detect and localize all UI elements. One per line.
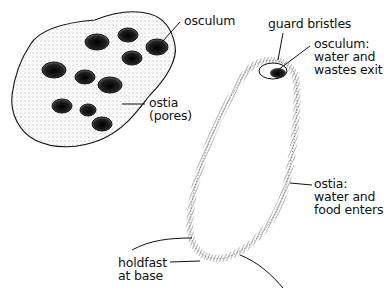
label-holdfast: holdfast at base	[118, 256, 167, 282]
sponge-colony	[12, 12, 180, 147]
substrate-line-left	[132, 238, 192, 250]
osculum-leader	[278, 46, 310, 70]
label-ostia: ostia: water and food enters	[314, 177, 383, 216]
holdfast-leader	[170, 261, 200, 262]
guard-bristles-leader	[278, 33, 283, 60]
label-colony-ostia: ostia (pores)	[149, 96, 192, 122]
substrate-line-right	[240, 255, 283, 288]
label-colony-osculum: osculum	[184, 14, 235, 27]
label-guard-bristles: guard bristles	[268, 17, 351, 30]
vase-body	[190, 61, 297, 259]
ostia-leader	[290, 183, 312, 185]
label-osculum: osculum: water and wastes exit	[314, 37, 383, 76]
